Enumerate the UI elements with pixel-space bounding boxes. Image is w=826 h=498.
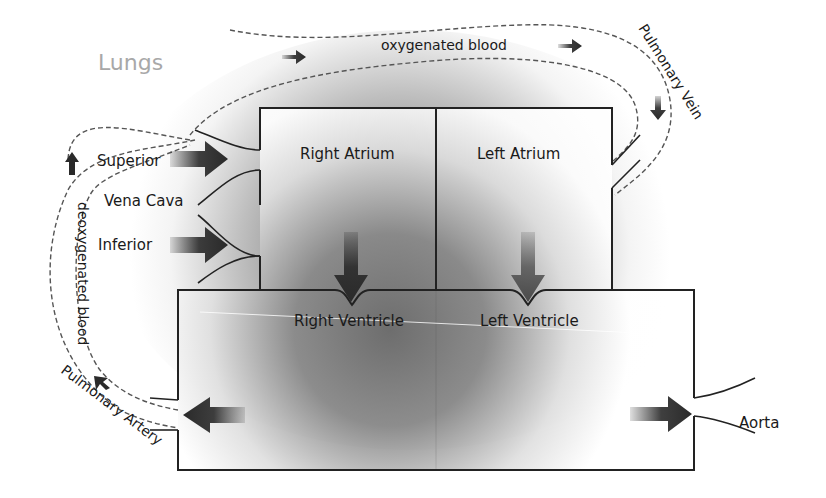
vena-cava-label: Vena Cava [104, 192, 184, 210]
arrow-up-icon [65, 152, 79, 175]
ventricles [178, 290, 694, 470]
left-ventricle-label: Left Ventricle [480, 312, 579, 330]
aorta-label: Aorta [739, 414, 779, 432]
left-atrium-label: Left Atrium [477, 145, 560, 163]
right-ventricle-label: Right Ventricle [294, 312, 404, 330]
deoxygenated-blood-label: deoxygenated blood [75, 202, 91, 345]
ventricles-fill [178, 290, 694, 470]
inferior-label: Inferior [98, 236, 153, 254]
oxygenated-blood-label: oxygenated blood [381, 37, 507, 53]
superior-label: Superior [97, 152, 161, 170]
arrow-right-icon [558, 39, 582, 53]
pulmonary-artery-label: Pulmonary Artery [58, 362, 166, 449]
lungs-label: Lungs [98, 50, 163, 75]
heart-circulation-diagram: Lungs oxygenated blood Pulmonary Vein Su… [0, 0, 826, 498]
right-atrium-label: Right Atrium [300, 145, 395, 163]
